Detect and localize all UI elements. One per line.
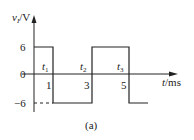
t2-label: t2 [80,60,87,74]
x-axis-label: t/ms [162,76,181,88]
figure-caption: (a) [85,119,98,132]
y-tick-neg6: −6 [14,97,26,109]
y-tick-0: 0 [20,68,26,80]
t3-value: 5 [121,79,127,91]
t2-value: 3 [84,79,90,91]
y-axis-label: vI/V [12,11,30,25]
t1-value: 1 [46,79,52,91]
waveform [34,47,148,103]
t1-label: t1 [42,60,49,74]
square-wave-diagram: vI/V 6 0 −6 t1 1 t2 3 t3 5 t/ms (a) [0,0,194,140]
y-tick-6: 6 [20,41,26,53]
t3-label: t3 [117,60,124,74]
y-axis-arrow-icon [32,15,37,23]
